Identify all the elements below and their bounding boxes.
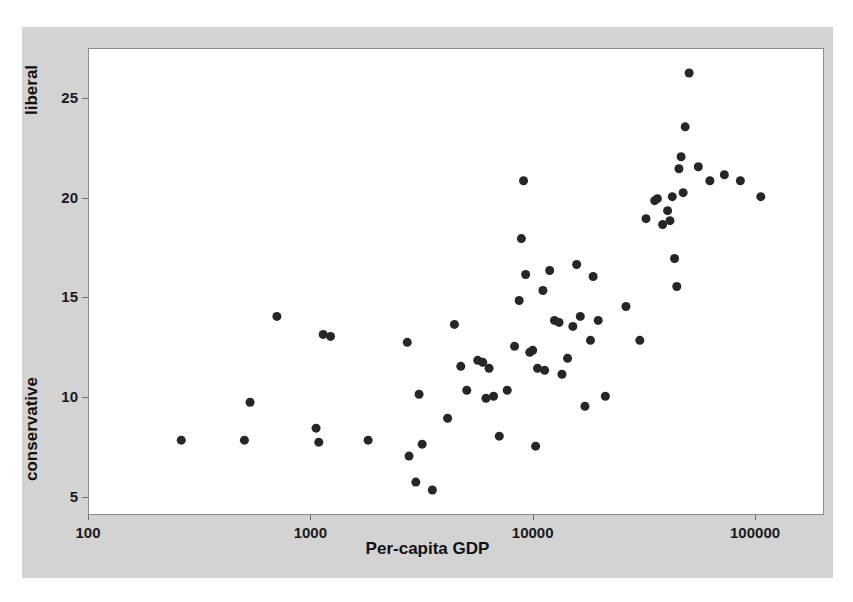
data-point bbox=[694, 162, 703, 171]
data-point bbox=[589, 272, 598, 281]
data-point bbox=[246, 398, 255, 407]
data-point bbox=[663, 206, 672, 215]
data-point bbox=[653, 194, 662, 203]
chart-panel: liberal conservative 510152025 100100010… bbox=[22, 27, 833, 578]
x-tick-label: 10000 bbox=[512, 525, 554, 540]
x-axis-label: Per-capita GDP bbox=[22, 539, 833, 559]
data-point bbox=[679, 188, 688, 197]
data-point bbox=[411, 478, 420, 487]
data-point bbox=[312, 424, 321, 433]
data-point bbox=[415, 390, 424, 399]
data-point bbox=[756, 192, 765, 201]
data-point bbox=[462, 386, 471, 395]
data-point bbox=[272, 312, 281, 321]
data-point bbox=[677, 152, 686, 161]
data-point bbox=[405, 452, 414, 461]
plot-area bbox=[88, 48, 824, 515]
y-axis-label-liberal: liberal bbox=[22, 45, 46, 135]
data-point bbox=[670, 254, 679, 263]
data-point bbox=[489, 392, 498, 401]
data-point bbox=[515, 296, 524, 305]
data-point bbox=[538, 286, 547, 295]
data-point bbox=[521, 270, 530, 279]
data-point bbox=[503, 386, 512, 395]
data-point bbox=[517, 234, 526, 243]
y-tick-label: 20 bbox=[61, 190, 78, 205]
data-point bbox=[621, 302, 630, 311]
data-point bbox=[450, 320, 459, 329]
data-point bbox=[364, 436, 373, 445]
y-tick-label: 5 bbox=[70, 489, 78, 504]
data-point bbox=[403, 338, 412, 347]
data-point bbox=[580, 402, 589, 411]
x-tick-label: 100000 bbox=[730, 525, 780, 540]
data-point bbox=[555, 318, 564, 327]
data-point bbox=[481, 394, 490, 403]
data-point bbox=[576, 312, 585, 321]
data-point bbox=[428, 486, 437, 495]
data-point bbox=[456, 362, 465, 371]
data-point bbox=[545, 266, 554, 275]
data-point bbox=[314, 438, 323, 447]
x-tick-label: 1000 bbox=[294, 525, 327, 540]
scatter-plot-figure: liberal conservative 510152025 100100010… bbox=[0, 0, 853, 602]
data-point bbox=[586, 336, 595, 345]
data-points-layer bbox=[89, 49, 823, 514]
data-point bbox=[495, 432, 504, 441]
data-point bbox=[240, 436, 249, 445]
y-tick-label: 25 bbox=[61, 90, 78, 105]
data-point bbox=[528, 346, 537, 355]
data-point bbox=[601, 392, 610, 401]
data-point bbox=[665, 216, 674, 225]
y-tick-label: 10 bbox=[61, 389, 78, 404]
data-point bbox=[568, 322, 577, 331]
data-point bbox=[531, 442, 540, 451]
x-tick-label: 100 bbox=[75, 525, 100, 540]
data-point bbox=[418, 440, 427, 449]
data-point bbox=[594, 316, 603, 325]
data-point bbox=[572, 260, 581, 269]
data-point bbox=[681, 122, 690, 131]
y-tick-label: 15 bbox=[61, 289, 78, 304]
data-point bbox=[685, 68, 694, 77]
data-point bbox=[642, 214, 651, 223]
data-point bbox=[635, 336, 644, 345]
data-point bbox=[674, 164, 683, 173]
y-axis-label-conservative: conservative bbox=[22, 357, 46, 502]
data-point bbox=[519, 176, 528, 185]
data-point bbox=[705, 176, 714, 185]
data-point bbox=[510, 342, 519, 351]
data-point bbox=[485, 364, 494, 373]
data-point bbox=[720, 170, 729, 179]
data-point bbox=[177, 436, 186, 445]
data-point bbox=[668, 192, 677, 201]
data-point bbox=[443, 414, 452, 423]
data-point bbox=[326, 332, 335, 341]
data-point bbox=[736, 176, 745, 185]
data-point bbox=[557, 370, 566, 379]
data-point bbox=[540, 366, 549, 375]
data-point bbox=[672, 282, 681, 291]
data-point bbox=[563, 354, 572, 363]
